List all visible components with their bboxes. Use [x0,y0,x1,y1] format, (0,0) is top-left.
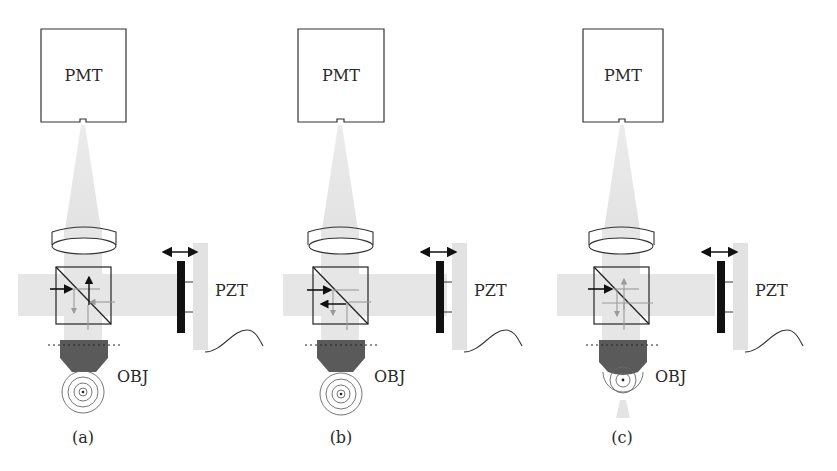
horizontal-beam [283,274,447,316]
panel-caption: (c) [611,428,632,447]
pzt-plate [452,243,467,350]
panel-caption: (b) [330,428,353,447]
detection-cone [604,125,640,230]
pzt-label: PZT [755,281,788,300]
panel-b: PMT OBJ [283,29,522,447]
pzt-plate [733,243,748,350]
pzt-drive-signal [464,330,522,352]
panel-c: PMT OBJ [557,29,803,447]
pzt-label: PZT [215,281,248,300]
obj-label: OBJ [655,367,686,386]
pzt-mirror-assembly: PZT [702,243,803,352]
pzt-plate [193,243,208,350]
pmt-detector: PMT [41,29,126,122]
panel-caption: (a) [72,428,94,447]
pmt-label: PMT [604,66,642,85]
transmitted-beam [616,400,630,418]
pmt-label: PMT [322,66,360,85]
reference-mirror [436,261,444,333]
reference-mirror [177,261,185,333]
pzt-mirror-assembly: PZT [163,243,263,352]
pzt-drive-signal [745,330,803,352]
obj-label: OBJ [374,367,405,386]
pmt-label: PMT [65,66,103,85]
detection-cone [65,125,101,230]
pmt-detector: PMT [583,29,663,122]
pmt-detector: PMT [298,29,384,122]
focus-rings [320,373,362,415]
focus-rings [62,371,104,413]
pzt-label: PZT [474,281,507,300]
objective: OBJ [305,340,405,386]
reference-mirror [717,261,725,333]
obj-label: OBJ [117,367,148,386]
objective: OBJ [48,340,148,386]
pzt-drive-signal [205,330,263,352]
detection-cone [322,125,358,230]
diagram-canvas: PMT OBJ [0,0,837,471]
panel-a: PMT OBJ [18,29,263,447]
pzt-mirror-assembly: PZT [421,243,522,352]
